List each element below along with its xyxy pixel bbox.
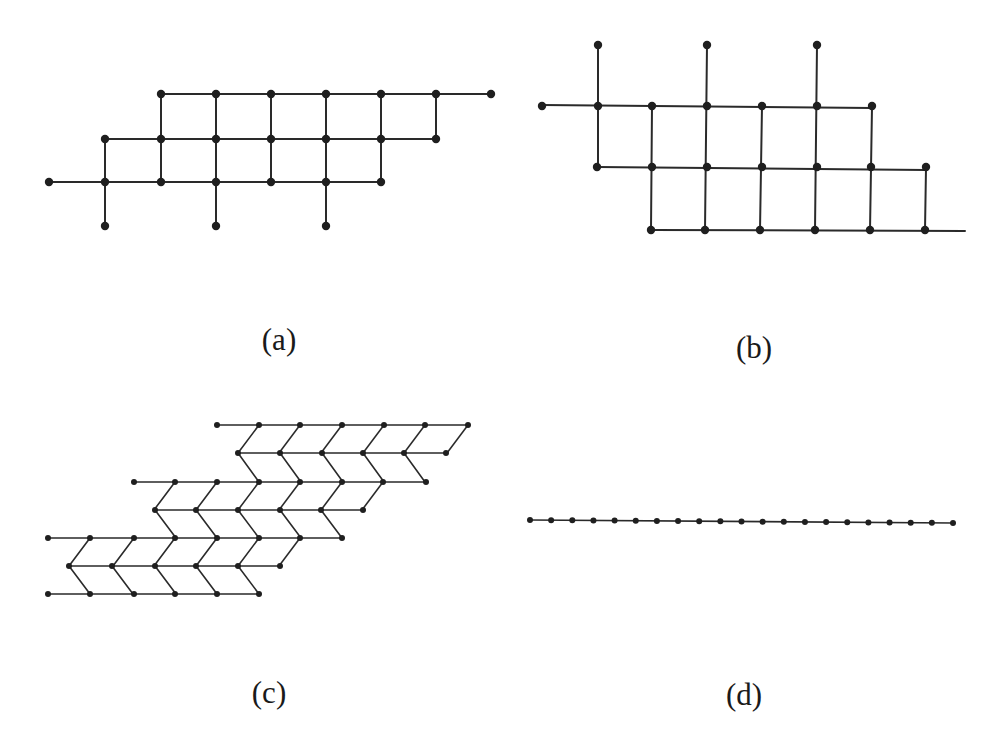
- edge: [651, 230, 965, 231]
- vertex: [297, 422, 303, 428]
- vertex: [101, 178, 109, 186]
- vertex: [758, 163, 766, 171]
- vertex: [908, 520, 914, 526]
- vertex: [527, 517, 533, 523]
- vertex: [109, 563, 115, 569]
- edge: [363, 453, 384, 482]
- vertex: [131, 535, 137, 541]
- vertex: [612, 518, 618, 524]
- edge: [238, 425, 259, 453]
- vertex: [844, 519, 850, 525]
- vertex: [360, 507, 366, 513]
- vertex: [45, 591, 51, 597]
- vertex: [422, 422, 428, 428]
- vertex: [339, 422, 345, 428]
- vertex: [717, 518, 723, 524]
- vertex: [360, 450, 366, 456]
- vertex: [277, 507, 283, 513]
- vertex: [172, 479, 178, 485]
- edge: [362, 482, 383, 510]
- vertex: [758, 102, 766, 110]
- vertex: [811, 226, 819, 234]
- vertex: [214, 422, 220, 428]
- vertex: [648, 163, 656, 171]
- edge: [321, 425, 342, 453]
- vertex: [267, 90, 275, 98]
- vertex: [45, 535, 51, 541]
- vertex: [648, 102, 656, 110]
- vertex: [193, 563, 199, 569]
- edge: [280, 510, 301, 538]
- vertex: [297, 535, 303, 541]
- edge: [321, 482, 342, 510]
- vertex: [212, 90, 220, 98]
- edge: [279, 538, 300, 566]
- vertex: [256, 535, 262, 541]
- vertex: [101, 222, 109, 230]
- edge: [196, 510, 217, 538]
- edge: [238, 482, 259, 510]
- edge: [705, 45, 707, 230]
- vertex: [87, 535, 93, 541]
- vertex: [802, 519, 808, 525]
- vertex: [647, 226, 655, 234]
- edge: [238, 538, 259, 566]
- edge: [113, 538, 134, 566]
- vertex: [781, 519, 787, 525]
- edge: [154, 482, 175, 510]
- vertex: [868, 102, 876, 110]
- panel-c-herringbone-graph: [45, 422, 471, 597]
- vertex: [235, 450, 241, 456]
- vertex: [157, 135, 165, 143]
- panel-c-label: (c): [252, 675, 286, 711]
- panel-d-label: (d): [726, 677, 762, 713]
- vertex: [867, 163, 875, 171]
- vertex: [739, 519, 745, 525]
- edge: [321, 510, 342, 538]
- edge: [238, 453, 259, 482]
- panel-b-label: (b): [736, 330, 772, 366]
- vertex: [318, 507, 324, 513]
- edge: [154, 538, 175, 566]
- edge: [280, 453, 301, 482]
- vertex: [212, 135, 220, 143]
- vertex: [256, 422, 262, 428]
- vertex: [322, 135, 330, 143]
- edge: [279, 482, 300, 510]
- vertex: [703, 163, 711, 171]
- vertex: [193, 507, 199, 513]
- vertex: [654, 518, 660, 524]
- vertex: [377, 90, 385, 98]
- vertex: [950, 520, 956, 526]
- vertex: [401, 450, 407, 456]
- vertex: [921, 226, 929, 234]
- vertex: [131, 591, 137, 597]
- vertex: [487, 90, 495, 98]
- edge: [322, 453, 343, 482]
- vertex: [760, 519, 766, 525]
- panel-b-grid-graph: [538, 41, 965, 234]
- vertex: [157, 178, 165, 186]
- vertex: [212, 178, 220, 186]
- vertex: [377, 178, 385, 186]
- edge: [279, 425, 300, 453]
- vertex: [866, 226, 874, 234]
- vertex: [172, 591, 178, 597]
- vertex: [339, 535, 345, 541]
- vertex: [423, 479, 429, 485]
- vertex: [214, 535, 220, 541]
- vertex: [322, 222, 330, 230]
- vertex: [594, 102, 602, 110]
- edge: [447, 425, 468, 453]
- vertex: [87, 591, 93, 597]
- vertex: [101, 135, 109, 143]
- edge: [112, 566, 133, 594]
- vertex: [432, 90, 440, 98]
- vertex: [322, 90, 330, 98]
- edge: [238, 566, 259, 594]
- panel-d-path-graph: [527, 517, 956, 526]
- vertex: [235, 563, 241, 569]
- vertex: [675, 518, 681, 524]
- vertex: [152, 507, 158, 513]
- vertex: [157, 90, 165, 98]
